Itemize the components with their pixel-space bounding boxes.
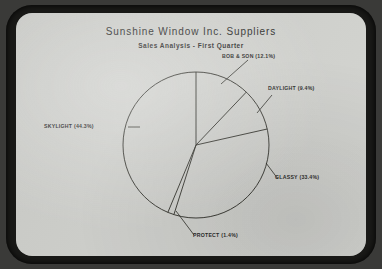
- pie-chart: Sunshine Window Inc. Suppliers Sales Ana…: [16, 13, 366, 256]
- slice-label-skylight: SKYLIGHT (44.3%): [44, 123, 94, 129]
- leader-bobson: [221, 60, 248, 84]
- chart-title: Sunshine Window Inc. Suppliers: [16, 26, 366, 37]
- divider-protect-skylight: [168, 145, 196, 212]
- chart-subtitle: Sales Analysis - First Quarter: [16, 42, 366, 49]
- photograph-frame: Sunshine Window Inc. Suppliers Sales Ana…: [0, 0, 382, 269]
- slice-label-daylight: DAYLIGHT (9.4%): [268, 85, 315, 91]
- slice-label-protect: PROTECT (1.4%): [193, 232, 238, 238]
- divider-daylight-glassy: [196, 129, 267, 145]
- slice-label-glassy: GLASSY (33.4%): [275, 174, 319, 180]
- leader-protect: [176, 211, 194, 235]
- plot-canvas: Sunshine Window Inc. Suppliers Sales Ana…: [16, 13, 366, 256]
- divider-bobson-daylight: [196, 92, 246, 145]
- leader-daylight: [257, 95, 272, 113]
- pie-slice-dividers: [168, 72, 267, 215]
- pie-graphic: [16, 13, 366, 256]
- slice-label-bob-and-son: BOB & SON (12.1%): [222, 53, 275, 59]
- divider-glassy-protect: [174, 145, 196, 215]
- label-leader-lines: [128, 60, 278, 235]
